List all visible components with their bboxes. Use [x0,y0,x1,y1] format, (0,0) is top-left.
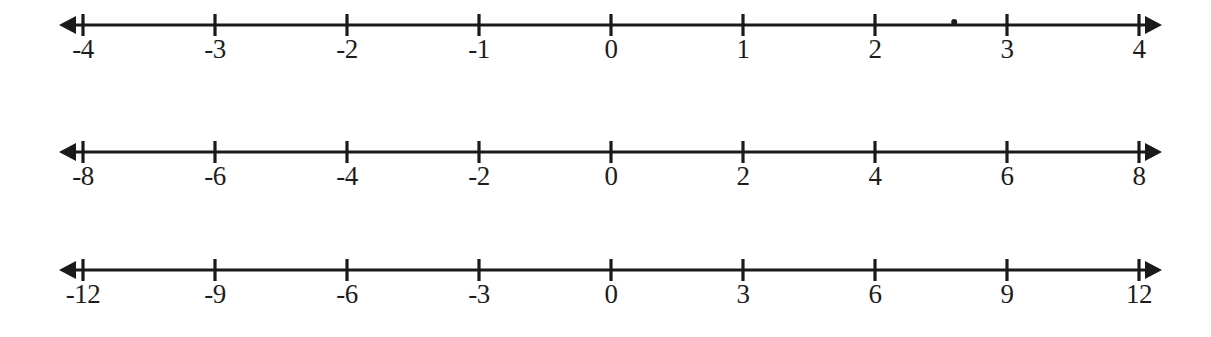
number-line-worksheet: -4-3-2-101234 -8-6-4-202468 -12-9-6-3036… [0,0,1211,337]
right-arrowhead [1145,261,1162,279]
number-line-3: -12-9-6-3036912 [0,245,1211,315]
number-line-2: -8-6-4-202468 [0,127,1211,197]
number-line-1: -4-3-2-101234 [0,0,1211,70]
right-arrowhead [1145,143,1162,161]
number-line-1-graphic [0,0,1211,70]
right-arrowhead [1145,16,1162,34]
number-line-2-graphic [0,127,1211,197]
left-arrowhead [59,261,76,279]
stray-dot-mark [951,19,957,25]
left-arrowhead [59,16,76,34]
number-line-3-graphic [0,245,1211,315]
left-arrowhead [59,143,76,161]
